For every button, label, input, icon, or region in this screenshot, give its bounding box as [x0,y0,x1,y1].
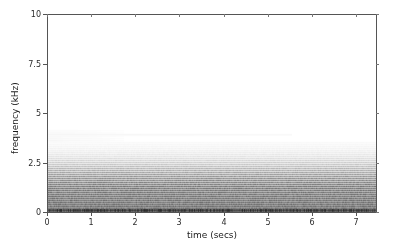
axis-spine-left [47,14,48,213]
x-tick-mark-top [356,14,357,17]
x-tick-label: 3 [176,218,181,227]
y-tick-mark [43,212,47,213]
x-tick-mark [179,212,180,216]
y-tick-label: 10 [5,10,41,19]
x-tick-mark [268,212,269,216]
y-tick-label: 0 [5,208,41,217]
y-tick-mark [43,64,47,65]
x-tick-label: 6 [309,218,314,227]
x-tick-mark [91,212,92,216]
y-tick-mark-right [376,212,379,213]
x-tick-mark-top [312,14,313,17]
x-tick-mark-top [179,14,180,17]
x-tick-mark [47,212,48,216]
plot-area [47,14,376,212]
y-axis-label: frequency (kHz) [10,63,20,173]
x-tick-mark-top [224,14,225,17]
x-tick-label: 2 [132,218,137,227]
y-tick-mark [43,113,47,114]
y-tick-mark-right [376,113,379,114]
y-tick-mark-right [376,163,379,164]
x-tick-mark-top [47,14,48,17]
x-tick-mark-top [91,14,92,17]
axis-spine-top [47,14,377,15]
y-tick-mark [43,163,47,164]
y-tick-mark [43,14,47,15]
y-tick-mark-right [376,64,379,65]
x-tick-label: 5 [265,218,270,227]
x-tick-label: 4 [221,218,226,227]
axis-spine-bottom [47,212,377,213]
x-tick-label: 0 [44,218,49,227]
x-tick-mark [356,212,357,216]
spectrogram-figure: 0123456702.557.510 time (secs) frequency… [0,0,394,249]
x-tick-mark [135,212,136,216]
x-axis-label: time (secs) [47,230,377,240]
x-tick-label: 7 [353,218,358,227]
y-tick-mark-right [376,14,379,15]
x-tick-mark-top [268,14,269,17]
spectrogram-canvas [47,14,376,212]
x-tick-label: 1 [88,218,93,227]
x-tick-mark-top [135,14,136,17]
x-tick-mark [312,212,313,216]
x-tick-mark [224,212,225,216]
